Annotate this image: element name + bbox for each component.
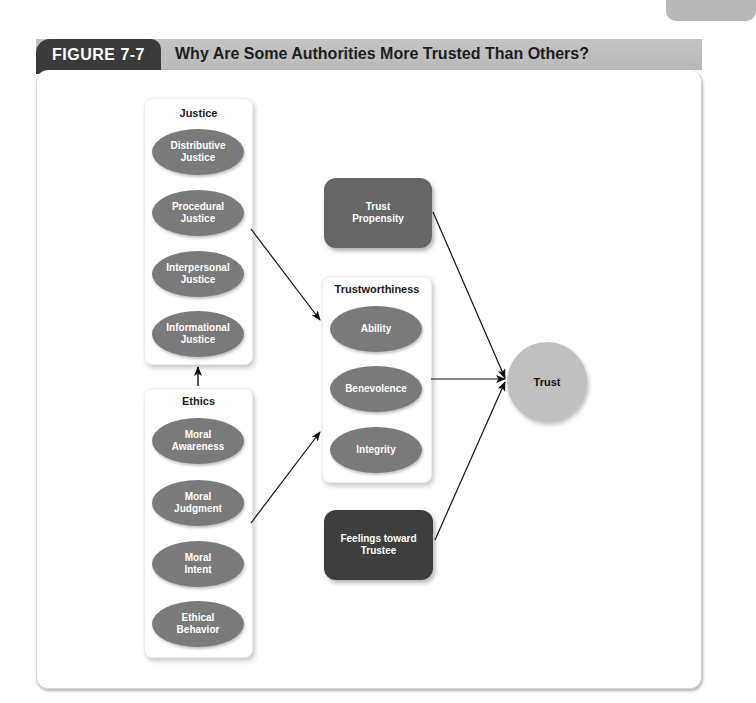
ability-node: Ability	[330, 306, 422, 352]
moral-intent-node: Moral Intent	[152, 541, 244, 587]
integrity-node: Integrity	[330, 427, 422, 473]
justice-title: Justice	[145, 107, 252, 119]
justice-group: Justice Distributive Justice Procedural …	[144, 98, 253, 365]
interpersonal-justice-node: Interpersonal Justice	[152, 251, 244, 297]
ethical-behavior-node: Ethical Behavior	[152, 601, 244, 647]
trust-propensity-node: Trust Propensity	[324, 178, 432, 248]
moral-awareness-node: Moral Awareness	[152, 418, 244, 464]
figure-label: FIGURE 7-7	[36, 39, 161, 74]
moral-judgment-node: Moral Judgment	[152, 480, 244, 526]
page-number-tab	[666, 0, 756, 21]
informational-justice-node: Informational Justice	[152, 311, 244, 357]
distributive-justice-node: Distributive Justice	[152, 129, 244, 175]
trustworthiness-title: Trustworthiness	[323, 283, 431, 295]
figure-title: Why Are Some Authorities More Trusted Th…	[175, 45, 589, 63]
trust-node: Trust	[507, 342, 587, 422]
feelings-toward-trustee-node: Feelings toward Trustee	[324, 510, 433, 580]
trustworthiness-group: Trustworthiness Ability Benevolence Inte…	[322, 276, 432, 483]
procedural-justice-node: Procedural Justice	[152, 190, 244, 236]
benevolence-node: Benevolence	[330, 366, 422, 412]
ethics-title: Ethics	[145, 395, 252, 407]
ethics-group: Ethics Moral Awareness Moral Judgment Mo…	[144, 388, 253, 658]
